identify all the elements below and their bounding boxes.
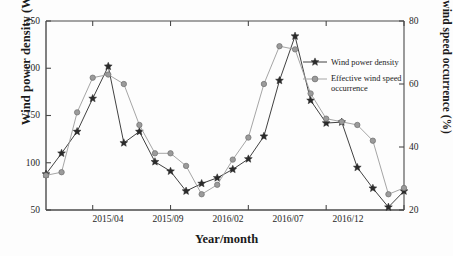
- plot-canvas: [0, 0, 453, 256]
- wind-chart-figure: Wind power density (W/m²) Effective wind…: [0, 0, 453, 256]
